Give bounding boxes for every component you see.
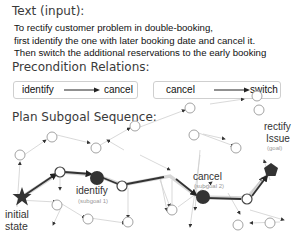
subgoal2-node: [196, 190, 210, 204]
goal-label-1: rectify: [264, 121, 291, 132]
subgoal1-label: identify: [76, 185, 108, 196]
initial-label-2: state: [5, 220, 28, 232]
goal-sub: (goal): [267, 145, 282, 151]
goal-pentagon-icon: [264, 163, 278, 176]
plan-graph: initial state identify (subgoal 1) cance…: [0, 0, 302, 237]
subgoal2-sub: (subgoal 2): [194, 183, 224, 189]
initial-state-star-icon: [13, 187, 32, 206]
goal-label-2: Issue: [266, 133, 290, 144]
subgoal1-node: [90, 171, 104, 185]
subgoal1-sub: (subgoal 1): [78, 198, 108, 204]
graph-nodes: [15, 91, 275, 230]
initial-label-1: initial: [5, 208, 29, 220]
subgoal2-label: cancel: [193, 171, 222, 182]
